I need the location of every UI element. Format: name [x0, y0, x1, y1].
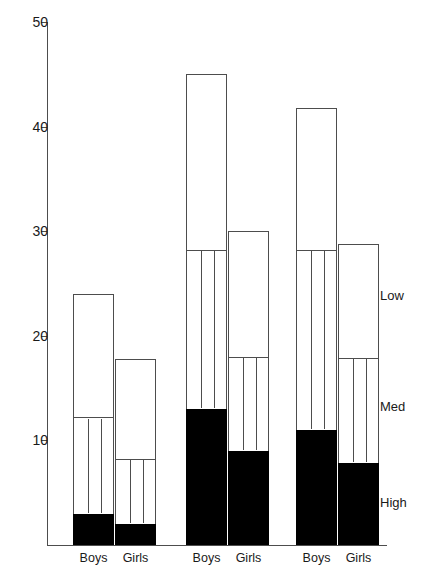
bar-segment-high — [338, 463, 379, 545]
x-axis-label-girls-5: Girls — [332, 550, 385, 566]
y-tick-40: 40 — [0, 127, 48, 128]
bar-med-hatch-line — [311, 251, 312, 429]
bar-segment-divider-med-low — [228, 357, 269, 358]
bar-segment-high — [115, 524, 156, 545]
legend-label-high: High — [380, 496, 407, 510]
y-tick-label: 50 — [14, 15, 48, 29]
y-tick-label: 20 — [14, 329, 48, 343]
bar-group-1-girls — [115, 359, 156, 545]
bar-med-hatch-line — [143, 460, 144, 523]
y-tick-label: 10 — [14, 433, 48, 447]
legend-label-med: Med — [380, 400, 405, 414]
bar-group-3-girls — [338, 244, 379, 545]
bar-med-hatch-line — [243, 358, 244, 450]
bar-group-1-boys — [73, 294, 114, 545]
x-axis-label-girls-1: Girls — [109, 550, 162, 566]
bar-chart: 5040302010 BoysGirlsBoysGirlsBoysGirls L… — [0, 0, 443, 577]
bar-group-2-girls — [228, 231, 269, 545]
bar-segment-divider-med-low — [338, 358, 379, 359]
bar-segment-high — [228, 451, 269, 545]
bar-med-hatch-line — [88, 419, 89, 513]
plot-area — [47, 22, 387, 545]
y-tick-label: 40 — [14, 120, 48, 134]
y-tick-label: 30 — [14, 224, 48, 238]
bar-med-hatch-line — [201, 251, 202, 408]
y-tick-50: 50 — [0, 22, 48, 23]
bar-med-hatch-line — [256, 358, 257, 450]
x-axis-label-girls-3: Girls — [222, 550, 275, 566]
bar-segment-divider-med-low — [115, 459, 156, 460]
y-tick-30: 30 — [0, 231, 48, 232]
bar-segment-divider-med-low — [73, 417, 114, 418]
bar-segment-divider-med-low — [296, 250, 337, 251]
bar-segment-high — [73, 514, 114, 545]
bar-group-3-boys — [296, 108, 337, 545]
bar-med-hatch-line — [324, 251, 325, 429]
bar-group-2-boys — [186, 74, 227, 545]
y-tick-20: 20 — [0, 336, 48, 337]
bar-med-hatch-line — [353, 359, 354, 463]
bar-med-hatch-line — [101, 419, 102, 513]
bar-segment-divider-med-low — [186, 250, 227, 251]
bar-med-hatch-line — [130, 460, 131, 523]
bar-segment-high — [186, 409, 227, 545]
bar-med-hatch-line — [214, 251, 215, 408]
x-axis-line — [47, 545, 387, 546]
y-tick-10: 10 — [0, 440, 48, 441]
bar-med-hatch-line — [366, 359, 367, 463]
legend-label-low: Low — [380, 289, 404, 303]
bar-segment-high — [296, 430, 337, 545]
